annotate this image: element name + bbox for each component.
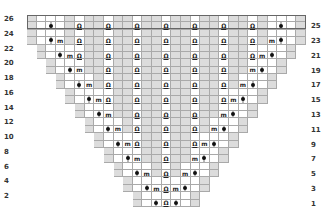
chart-cell bbox=[200, 126, 210, 133]
dot-stitch-icon bbox=[85, 96, 95, 103]
yarnover-icon: Ω bbox=[162, 170, 172, 177]
chart-cell bbox=[85, 89, 95, 96]
dot-stitch-icon bbox=[46, 37, 56, 44]
chart-cell bbox=[229, 104, 239, 111]
chart-cell bbox=[85, 67, 95, 74]
yarnover-icon: Ω bbox=[162, 185, 172, 192]
row-label-right: 9 bbox=[311, 141, 316, 149]
row-label-right: 5 bbox=[311, 170, 316, 178]
chart-cell bbox=[229, 59, 239, 66]
chart-cell bbox=[296, 22, 306, 29]
chart-cell bbox=[268, 15, 278, 22]
chart-cell bbox=[248, 74, 258, 81]
chart-cell bbox=[181, 192, 191, 199]
chart-cell bbox=[56, 45, 66, 52]
chart-cell bbox=[210, 37, 220, 44]
chart-cell bbox=[142, 67, 152, 74]
chart-cell bbox=[46, 30, 56, 37]
chart-cell bbox=[56, 81, 66, 88]
chart-cell bbox=[133, 185, 143, 192]
m-stitch-symbol: m bbox=[171, 185, 181, 192]
yarnover-icon: Ω bbox=[191, 96, 201, 103]
chart-cell bbox=[239, 118, 249, 125]
chart-cell bbox=[210, 111, 220, 118]
yarnover-icon: Ω bbox=[219, 67, 229, 74]
chart-cell bbox=[75, 45, 85, 52]
chart-cell bbox=[27, 37, 37, 44]
chart-cell bbox=[200, 111, 210, 118]
dot-stitch-icon bbox=[133, 170, 143, 177]
chart-cell bbox=[27, 22, 37, 29]
chart-cell bbox=[239, 30, 249, 37]
chart-cell bbox=[104, 15, 114, 22]
chart-cell bbox=[200, 74, 210, 81]
chart-cell bbox=[152, 52, 162, 59]
chart-cell bbox=[239, 89, 249, 96]
chart-cell bbox=[123, 81, 133, 88]
chart-cell bbox=[162, 133, 172, 140]
chart-cell bbox=[229, 118, 239, 125]
chart-cell bbox=[181, 177, 191, 184]
chart-cell bbox=[181, 133, 191, 140]
chart-cell bbox=[200, 170, 210, 177]
chart-cell bbox=[133, 89, 143, 96]
chart-cell bbox=[142, 163, 152, 170]
chart-cell bbox=[229, 15, 239, 22]
chart-cell bbox=[162, 89, 172, 96]
chart-cell bbox=[123, 111, 133, 118]
chart-cell bbox=[210, 22, 220, 29]
row-label-left: 26 bbox=[4, 15, 14, 23]
dot-stitch-icon bbox=[277, 37, 287, 44]
chart-cell bbox=[152, 141, 162, 148]
chart-cell bbox=[162, 30, 172, 37]
chart-cell bbox=[200, 81, 210, 88]
chart-cell bbox=[123, 163, 133, 170]
chart-cell bbox=[75, 15, 85, 22]
yarnover-icon: Ω bbox=[162, 96, 172, 103]
dot-stitch-icon bbox=[229, 111, 239, 118]
chart-cell bbox=[219, 141, 229, 148]
chart-cell bbox=[123, 59, 133, 66]
dot-stitch-icon bbox=[239, 96, 249, 103]
chart-cell bbox=[152, 30, 162, 37]
yarnover-icon: Ω bbox=[191, 141, 201, 148]
chart-cell bbox=[239, 37, 249, 44]
chart-cell bbox=[171, 67, 181, 74]
chart-cell bbox=[152, 104, 162, 111]
chart-cell bbox=[133, 45, 143, 52]
chart-cell bbox=[142, 118, 152, 125]
chart-cell bbox=[104, 133, 114, 140]
chart-cell bbox=[114, 111, 124, 118]
chart-cell bbox=[114, 170, 124, 177]
chart-cell bbox=[94, 37, 104, 44]
chart-cell bbox=[114, 148, 124, 155]
dot-stitch-icon bbox=[94, 111, 104, 118]
row-label-right: 17 bbox=[311, 81, 321, 89]
chart-cell bbox=[171, 74, 181, 81]
chart-cell bbox=[162, 104, 172, 111]
yarnover-icon: Ω bbox=[191, 81, 201, 88]
yarnover-icon: Ω bbox=[133, 52, 143, 59]
row-label-right: 21 bbox=[311, 52, 321, 60]
m-stitch-symbol: m bbox=[248, 67, 258, 74]
chart-cell bbox=[181, 89, 191, 96]
chart-cell bbox=[287, 45, 297, 52]
yarnover-icon: Ω bbox=[162, 37, 172, 44]
chart-cell bbox=[162, 177, 172, 184]
row-label-right: 13 bbox=[311, 111, 321, 119]
yarnover-icon: Ω bbox=[248, 52, 258, 59]
chart-cell bbox=[104, 30, 114, 37]
yarnover-icon: Ω bbox=[162, 52, 172, 59]
chart-cell bbox=[181, 111, 191, 118]
chart-cell bbox=[114, 52, 124, 59]
row-label-left: 4 bbox=[4, 177, 9, 185]
yarnover-icon: Ω bbox=[162, 200, 172, 207]
m-stitch-symbol: m bbox=[75, 67, 85, 74]
row-label-left: 8 bbox=[4, 148, 9, 156]
chart-cell bbox=[191, 177, 201, 184]
chart-cell bbox=[56, 30, 66, 37]
yarnover-icon: Ω bbox=[191, 111, 201, 118]
chart-cell bbox=[268, 67, 278, 74]
chart-cell bbox=[181, 67, 191, 74]
row-label-left: 20 bbox=[4, 59, 14, 67]
